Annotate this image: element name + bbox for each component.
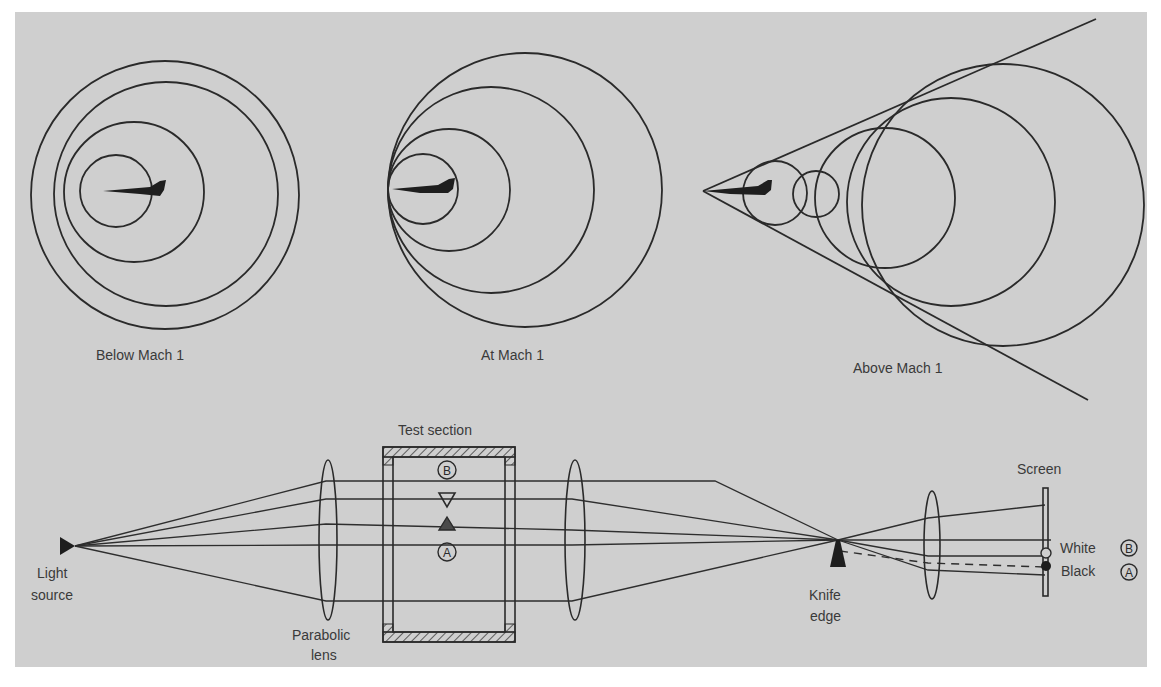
label-black: Black xyxy=(1061,563,1096,579)
white-spot xyxy=(1041,548,1051,558)
deflected-ray-dashed xyxy=(840,551,1045,567)
parabolic-lens-1 xyxy=(319,460,337,620)
light-ray xyxy=(75,540,838,601)
wavefront xyxy=(862,64,1144,346)
caption-below-mach: Below Mach 1 xyxy=(96,347,184,363)
marker-a-screen: A xyxy=(1121,564,1137,580)
svg-text:A: A xyxy=(1125,566,1133,580)
label-test-section: Test section xyxy=(398,422,472,438)
above-mach-panel: Above Mach 1 xyxy=(703,19,1144,400)
caption-at-mach: At Mach 1 xyxy=(481,347,544,363)
label-parabolic-2: lens xyxy=(311,647,337,663)
label-screen: Screen xyxy=(1017,461,1061,477)
label-parabolic-1: Parabolic xyxy=(292,627,350,643)
svg-text:B: B xyxy=(443,464,451,478)
label-knife-2: edge xyxy=(810,608,841,624)
label-light-source-1: Light xyxy=(37,565,67,581)
density-wedge-up-icon xyxy=(439,517,455,530)
black-spot xyxy=(1041,561,1051,571)
light-ray xyxy=(838,505,1045,540)
wavefront xyxy=(54,82,278,306)
light-ray xyxy=(75,499,838,546)
airplane-icon xyxy=(392,178,455,193)
airplane-icon xyxy=(103,180,166,196)
schlieren-setup: Light source Parabolic lens Test section xyxy=(31,422,1137,663)
knife-edge-icon xyxy=(830,540,846,567)
marker-a-circle: A xyxy=(438,543,456,561)
caption-above-mach: Above Mach 1 xyxy=(853,360,943,376)
screen xyxy=(1043,488,1048,596)
wavefront xyxy=(31,61,299,329)
at-mach-panel: At Mach 1 xyxy=(388,53,662,363)
light-source-icon xyxy=(60,537,75,555)
svg-text:B: B xyxy=(1125,542,1133,556)
label-knife-1: Knife xyxy=(809,587,841,603)
mach-cone-upper xyxy=(703,19,1096,191)
label-light-source-2: source xyxy=(31,587,73,603)
diagram-canvas: Below Mach 1 At Mach 1 Above Mach 1 Ligh… xyxy=(0,0,1161,687)
light-ray xyxy=(838,540,1045,556)
wavefront xyxy=(815,128,955,268)
below-mach-panel: Below Mach 1 xyxy=(31,61,299,363)
parabolic-lens-2 xyxy=(565,460,585,620)
light-ray xyxy=(75,540,838,546)
airplane-icon xyxy=(703,180,772,195)
marker-b-screen: B xyxy=(1121,540,1137,556)
marker-b-circle: B xyxy=(438,461,456,479)
svg-text:A: A xyxy=(443,546,451,560)
density-wedge-down-icon xyxy=(439,493,455,507)
focusing-lens xyxy=(924,491,940,599)
label-white: White xyxy=(1060,540,1096,556)
